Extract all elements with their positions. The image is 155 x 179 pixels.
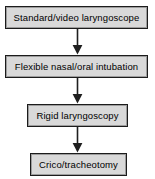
flowchart-diagram: Standard/video laryngoscope Flexible nas… — [0, 0, 155, 179]
flowchart-arrow-down-3 — [71, 127, 84, 153]
flowchart-node-label: Crico/tracheotomy — [39, 159, 118, 169]
flowchart-node-crico-tracheotomy: Crico/tracheotomy — [30, 153, 127, 176]
flowchart-arrow-down-2 — [71, 78, 84, 104]
flowchart-node-label: Flexible nasal/oral intubation — [15, 61, 138, 70]
flowchart-node-rigid-laryngoscopy: Rigid laryngoscopy — [27, 104, 128, 127]
flowchart-node-standard-video-laryngoscope: Standard/video laryngoscope — [5, 6, 148, 29]
flowchart-arrow-down-1 — [71, 29, 84, 55]
flowchart-node-label: Standard/video laryngoscope — [14, 12, 140, 22]
flowchart-node-flexible-nasal-oral-intubation: Flexible nasal/oral intubation — [5, 55, 148, 78]
flowchart-node-label: Rigid laryngoscopy — [36, 110, 118, 120]
